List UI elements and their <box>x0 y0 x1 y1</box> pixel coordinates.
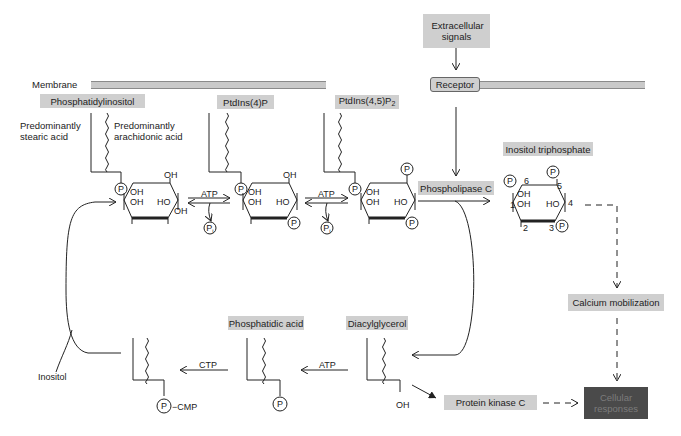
dag-chain <box>383 338 386 384</box>
pathway-diagram: P P P P P P P P P P P Pi Pi <box>0 0 681 436</box>
pip-chain <box>226 113 229 172</box>
inositol-ring-1 <box>115 178 178 224</box>
p-label: P <box>161 401 167 411</box>
dag-to-pkc-arrow <box>412 385 436 398</box>
ip3-to-calcium-arrow <box>585 205 617 288</box>
p-label: P <box>291 218 297 228</box>
pa-glycerol-backbone <box>247 338 280 396</box>
p-label: P <box>352 184 358 194</box>
pi-arachidonic-chain <box>106 113 109 172</box>
plc-to-dag-arc <box>412 201 474 355</box>
p-label: P <box>409 218 415 228</box>
p-label: P <box>277 399 283 409</box>
cdpdag-chain <box>146 338 149 384</box>
cdpdag-glycerol-backbone <box>133 338 164 396</box>
pi-label: Pi <box>206 223 213 234</box>
p-label: P <box>507 176 513 186</box>
pip2-chain <box>339 113 342 172</box>
pip-glycerol-backbone <box>209 113 241 183</box>
p-label: P <box>550 167 556 177</box>
p-label: P <box>238 184 244 194</box>
p-label: P <box>118 184 124 194</box>
pi-label: Pi <box>323 223 330 234</box>
cdpdag-to-pi-arc <box>66 202 121 353</box>
inositol-input-line <box>56 330 72 372</box>
p-label: P <box>404 164 410 174</box>
pa-chain <box>263 338 266 384</box>
p-label: P <box>559 221 565 231</box>
